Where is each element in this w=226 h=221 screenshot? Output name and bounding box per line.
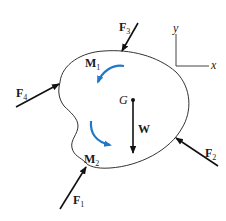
rigid-body-outline xyxy=(59,51,189,169)
moment-m1: M1 xyxy=(85,56,124,82)
force-f2-label: F2 xyxy=(205,146,216,162)
moment-m2-arc-arrow xyxy=(91,121,110,145)
center-of-gravity-label: G xyxy=(119,93,128,107)
force-f3: F3 xyxy=(119,20,138,51)
free-body-diagram: y x F3 F4 F1 F2 G W xyxy=(0,0,226,221)
coordinate-axes: y x xyxy=(172,21,217,72)
moment-m2: M2 xyxy=(84,121,110,168)
force-f1-label: F1 xyxy=(73,193,84,209)
force-f4: F4 xyxy=(16,84,59,107)
force-f1: F1 xyxy=(60,167,86,209)
moment-m1-label: M1 xyxy=(85,56,100,72)
weight-label: W xyxy=(138,122,150,136)
moment-m1-arc-arrow xyxy=(98,66,124,82)
force-f3-label: F3 xyxy=(119,20,130,36)
x-axis-label: x xyxy=(210,58,217,72)
moment-m2-label: M2 xyxy=(84,152,99,168)
weight-force: W xyxy=(133,101,150,153)
y-axis-label: y xyxy=(172,21,179,35)
force-f2: F2 xyxy=(176,138,218,166)
force-f4-label: F4 xyxy=(16,86,27,102)
